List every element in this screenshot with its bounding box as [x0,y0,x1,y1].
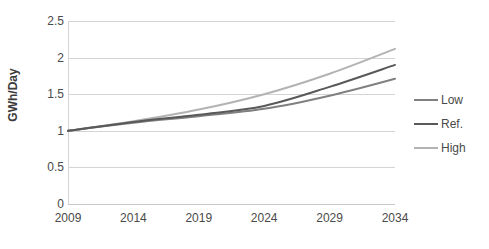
x-axis-tick-label: 2019 [169,211,229,225]
x-axis-tick-label: 2024 [234,211,294,225]
y-axis-tick-label: 0 [24,198,64,210]
legend-label: High [441,141,466,155]
legend-label: Ref. [441,117,463,131]
x-axis-tick-label: 2009 [38,211,98,225]
series-line-ref [68,65,395,131]
y-axis-tick-label: 1 [24,125,64,137]
plot-area [68,21,395,204]
series-line-high [68,49,395,131]
x-axis-line [68,204,395,205]
legend-item-high[interactable]: High [414,136,489,160]
y-axis-tick-label: 2 [24,52,64,64]
x-axis-tick-label: 2029 [300,211,360,225]
legend-item-ref[interactable]: Ref. [414,112,489,136]
x-axis-tick-label: 2014 [103,211,163,225]
chart-legend: LowRef.High [414,88,489,160]
x-axis-tick-label: 2034 [365,211,425,225]
y-axis-tick-label: 0.5 [24,161,64,173]
y-axis-tick-label: 1.5 [24,88,64,100]
legend-item-low[interactable]: Low [414,88,489,112]
y-axis-title: GWh/Day [6,55,20,135]
legend-line-swatch-icon [414,147,438,149]
x-axis-tick-labels: 200920142019202420292034 [68,211,395,231]
line-chart: GWh/Day 00.511.522.5 2009201420192024202… [0,0,489,249]
legend-line-swatch-icon [414,123,438,125]
y-axis-tick-label: 2.5 [24,15,64,27]
legend-label: Low [441,93,463,107]
series-lines [68,21,395,204]
legend-line-swatch-icon [414,99,438,101]
